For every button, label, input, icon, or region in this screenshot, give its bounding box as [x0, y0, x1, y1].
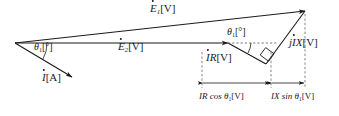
- label-dim-ircos-expr: IR cos: [199, 91, 222, 101]
- label-dim-ixsin-expr: IX sin: [271, 91, 292, 101]
- vector-e1: [15, 11, 305, 43]
- label-theta1-left-subscript: 1: [39, 46, 42, 53]
- label-dim-ircos-subscript: 1: [228, 96, 231, 102]
- label-dim-ircos: IR cos θ1[V]: [199, 92, 244, 101]
- label-ir: IR[V]: [206, 52, 232, 63]
- label-e1-symbol: E: [150, 2, 157, 14]
- label-e1-unit: [V]: [160, 2, 175, 14]
- label-e2: E2[V]: [118, 41, 143, 52]
- label-current-unit: [A]: [46, 71, 61, 83]
- label-theta1-right: θ1[°]: [227, 27, 246, 37]
- label-e2-symbol: E: [118, 40, 125, 52]
- label-dim-ixsin: IX sin θ1[V]: [271, 92, 314, 101]
- label-jix: jIX[V]: [289, 37, 318, 48]
- label-dim-ixsin-subscript: 1: [299, 96, 302, 102]
- label-ir-unit: [V]: [216, 51, 231, 63]
- label-current: I[A]: [42, 72, 61, 83]
- label-e1: E1[V]: [150, 3, 175, 14]
- label-ir-symbol: I: [206, 51, 210, 63]
- label-e2-subscript: 2: [125, 46, 128, 53]
- label-e1-subscript: 1: [157, 8, 160, 15]
- label-dim-ixsin-unit: [V]: [302, 91, 315, 101]
- label-jix-symbol: I: [292, 36, 296, 48]
- label-current-symbol: I: [42, 71, 46, 83]
- theta1-right-arc: [248, 43, 251, 53]
- label-dim-ircos-unit: [V]: [231, 91, 244, 101]
- label-theta1-left: θ1[°]: [34, 42, 53, 52]
- label-theta1-right-unit: [°]: [235, 26, 246, 37]
- right-angle-mark: [260, 48, 274, 62]
- phasor-diagram-figure: E1[V] E2[V] I[A] IR[V] jIX[V] θ1[°] θ1[°…: [0, 0, 339, 116]
- label-theta1-left-unit: [°]: [42, 41, 53, 52]
- vector-ir: [228, 43, 266, 64]
- label-jix-unit: [V]: [302, 36, 317, 48]
- label-theta1-right-subscript: 1: [232, 31, 235, 38]
- label-e2-unit: [V]: [128, 40, 143, 52]
